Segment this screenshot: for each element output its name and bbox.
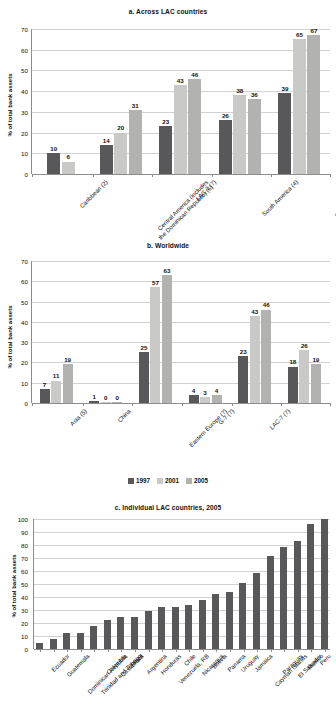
bar[interactable]: 63 xyxy=(162,275,172,403)
bar[interactable]: 26 xyxy=(299,350,309,403)
bar[interactable]: 6 xyxy=(62,162,75,174)
bar[interactable]: 1 xyxy=(89,401,99,403)
bar-group: 142031 xyxy=(92,29,152,174)
bar-value-label: 43 xyxy=(251,309,258,315)
axis-tick xyxy=(93,174,94,177)
bar[interactable]: 39 xyxy=(278,93,291,174)
axis-tick xyxy=(189,649,190,652)
bar[interactable] xyxy=(145,611,152,649)
bar[interactable] xyxy=(63,633,70,649)
bar[interactable]: 19 xyxy=(63,364,73,403)
y-tick-label: 0 xyxy=(25,171,28,178)
bar[interactable] xyxy=(267,556,274,649)
bar[interactable]: 67 xyxy=(307,35,320,174)
bar-value-label: 6 xyxy=(67,154,70,160)
bar[interactable] xyxy=(90,626,97,649)
bar-value-label: 63 xyxy=(163,268,170,274)
axis-tick xyxy=(330,174,331,177)
bar-value-label: 23 xyxy=(240,349,247,355)
bar-value-label: 14 xyxy=(103,138,110,144)
y-tick-label: 40 xyxy=(21,594,28,601)
bar[interactable] xyxy=(104,620,111,649)
bar[interactable] xyxy=(77,633,84,649)
bar[interactable]: 20 xyxy=(114,133,127,174)
axis-tick xyxy=(271,649,272,652)
bar[interactable]: 0 xyxy=(112,402,122,403)
bar[interactable]: 7 xyxy=(40,389,50,403)
category-label: China xyxy=(117,408,133,424)
bar[interactable]: 31 xyxy=(129,110,142,174)
axis-tick xyxy=(54,649,55,652)
bar[interactable] xyxy=(117,617,124,650)
bar[interactable]: 14 xyxy=(100,145,113,174)
axis-tick xyxy=(132,403,133,406)
bar[interactable] xyxy=(226,592,233,649)
bar-value-label: 23 xyxy=(162,119,169,125)
bar[interactable]: 43 xyxy=(250,316,260,403)
axis-tick xyxy=(149,649,150,652)
y-tick-label: 100 xyxy=(18,516,28,523)
axis-tick xyxy=(32,403,33,406)
bar[interactable] xyxy=(172,607,179,649)
bar[interactable] xyxy=(199,600,206,649)
bar[interactable]: 0 xyxy=(101,402,111,403)
bar-value-label: 19 xyxy=(312,357,319,363)
axis-tick xyxy=(232,403,233,406)
y-tick-label: 70 xyxy=(21,258,28,265)
bar[interactable] xyxy=(185,605,192,649)
bar[interactable]: 46 xyxy=(261,310,271,403)
y-tick-label: 70 xyxy=(21,555,28,562)
axis-tick xyxy=(182,403,183,406)
category-label: Caribbean (2) xyxy=(79,179,110,210)
axis-tick xyxy=(284,649,285,652)
legend-label: 2005 xyxy=(194,477,208,484)
bar[interactable] xyxy=(212,594,219,649)
bar[interactable]: 65 xyxy=(293,39,306,174)
bar-group: 234346 xyxy=(231,261,281,403)
bar[interactable]: 23 xyxy=(159,126,172,174)
bar[interactable]: 26 xyxy=(219,120,232,174)
chart-b-plot-area: % of total bank assets 010203040506070 7… xyxy=(0,249,336,481)
bar[interactable]: 25 xyxy=(139,352,149,403)
chart-c-title: c. Individual LAC countries, 2005 xyxy=(0,498,336,511)
legend-item[interactable]: 1997 xyxy=(128,477,150,484)
bar[interactable] xyxy=(158,607,165,649)
bar[interactable] xyxy=(307,524,314,649)
bar[interactable]: 23 xyxy=(238,356,248,403)
bar-value-label: 19 xyxy=(64,357,71,363)
bar[interactable]: 11 xyxy=(51,381,61,403)
bar[interactable] xyxy=(239,583,246,649)
bar[interactable] xyxy=(50,639,57,649)
chart-c-y-ticks: 0102030405060708090100 xyxy=(8,519,28,649)
bar[interactable] xyxy=(131,617,138,650)
axis-tick xyxy=(81,649,82,652)
bar[interactable]: 36 xyxy=(248,99,261,174)
bar[interactable]: 4 xyxy=(212,395,222,403)
y-tick-label: 70 xyxy=(21,26,28,33)
bar[interactable]: 3 xyxy=(200,397,210,403)
y-tick-label: 10 xyxy=(21,379,28,386)
y-tick-label: 80 xyxy=(21,542,28,549)
bar[interactable]: 46 xyxy=(188,79,201,174)
bar[interactable] xyxy=(280,547,287,649)
y-tick-label: 40 xyxy=(21,318,28,325)
legend-label: 2001 xyxy=(165,477,179,484)
legend-item[interactable]: 2005 xyxy=(186,477,208,484)
legend-item[interactable]: 2001 xyxy=(157,477,179,484)
bar[interactable]: 43 xyxy=(174,85,187,174)
bar[interactable] xyxy=(253,573,260,649)
bar-group: 71119 xyxy=(32,261,82,403)
bar[interactable]: 4 xyxy=(189,395,199,403)
x-axis-line xyxy=(34,649,330,650)
bar[interactable]: 19 xyxy=(311,364,321,403)
bar[interactable]: 18 xyxy=(288,367,298,404)
axis-tick xyxy=(271,174,272,177)
axis-tick xyxy=(40,649,41,652)
bar[interactable] xyxy=(321,519,328,649)
bar[interactable]: 57 xyxy=(150,287,160,403)
axis-tick xyxy=(257,649,258,652)
bar[interactable]: 10 xyxy=(47,153,60,174)
bar[interactable]: 38 xyxy=(233,95,246,174)
bar[interactable] xyxy=(294,541,301,649)
chart-panel-a: a. Across LAC countries % of total bank … xyxy=(0,0,336,240)
